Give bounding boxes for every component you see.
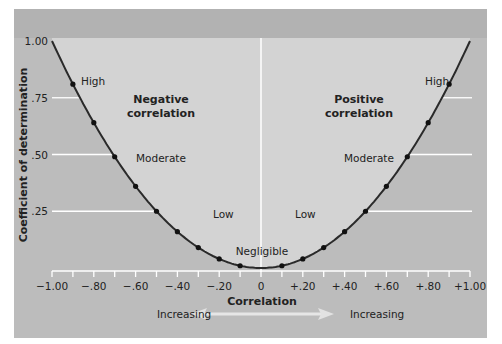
x-tick-label: −.20 bbox=[206, 280, 232, 292]
positive-correlation-label-line1: Positive bbox=[334, 93, 384, 106]
data-point bbox=[217, 256, 222, 261]
data-point bbox=[175, 229, 180, 234]
x-axis-title: Correlation bbox=[227, 295, 297, 308]
y-axis-title: Coefficient of determination bbox=[17, 68, 30, 243]
data-point bbox=[384, 184, 389, 189]
negligible-label: Negligible bbox=[236, 245, 288, 257]
negative-correlation-label-line1: Negative bbox=[133, 93, 189, 106]
positive-correlation-label-line2: correlation bbox=[325, 107, 393, 120]
increasing-right-label: Increasing bbox=[350, 308, 404, 320]
data-point bbox=[321, 245, 326, 250]
data-point bbox=[133, 184, 138, 189]
y-tick-label: 1.00 bbox=[25, 35, 48, 47]
data-point bbox=[405, 154, 410, 159]
data-point bbox=[154, 209, 159, 214]
data-point bbox=[70, 82, 75, 87]
data-point bbox=[112, 154, 117, 159]
x-tick-label: +1.00 bbox=[454, 280, 486, 292]
increasing-left-label: Increasing bbox=[157, 308, 211, 320]
x-tick-label: −.40 bbox=[165, 280, 191, 292]
x-tick-label: −.60 bbox=[123, 280, 149, 292]
x-tick-label: +.80 bbox=[415, 280, 441, 292]
y-tick-label: .50 bbox=[31, 149, 48, 161]
high-left-label: High bbox=[81, 75, 105, 87]
chart-svg: −1.00−.80−.60−.40−.200+.20+.40+.60+.80+1… bbox=[0, 0, 502, 344]
x-tick-label: 0 bbox=[258, 280, 265, 292]
moderate-right-label: Moderate bbox=[344, 152, 394, 164]
low-left-label: Low bbox=[213, 208, 234, 220]
data-point bbox=[363, 209, 368, 214]
data-point bbox=[279, 263, 284, 268]
data-point bbox=[342, 229, 347, 234]
data-point bbox=[426, 120, 431, 125]
data-point bbox=[196, 245, 201, 250]
top-band bbox=[14, 9, 487, 38]
y-tick-label: .75 bbox=[31, 92, 48, 104]
x-tick-label: +.60 bbox=[374, 280, 400, 292]
high-right-label: High bbox=[425, 75, 449, 87]
x-tick-label: −.80 bbox=[81, 280, 107, 292]
negative-correlation-label-line2: correlation bbox=[127, 107, 195, 120]
data-point bbox=[91, 120, 96, 125]
low-right-label: Low bbox=[295, 208, 316, 220]
data-point bbox=[300, 256, 305, 261]
y-tick-label: .25 bbox=[31, 205, 48, 217]
x-tick-label: +.20 bbox=[290, 280, 316, 292]
data-point bbox=[238, 263, 243, 268]
x-tick-label: +.40 bbox=[332, 280, 358, 292]
chart: −1.00−.80−.60−.40−.200+.20+.40+.60+.80+1… bbox=[0, 0, 502, 344]
moderate-left-label: Moderate bbox=[136, 152, 186, 164]
x-tick-label: −1.00 bbox=[36, 280, 68, 292]
